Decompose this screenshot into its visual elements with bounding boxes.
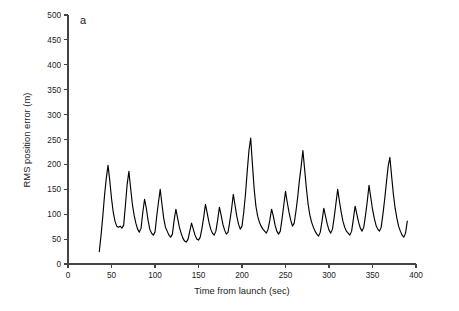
x-tick-label: 350 xyxy=(366,271,380,280)
x-tick-label: 400 xyxy=(409,271,423,280)
y-tick-label: 100 xyxy=(47,210,61,219)
y-tick-label: 50 xyxy=(52,235,62,244)
y-axis-title: RMS position error (m) xyxy=(21,93,32,188)
y-tick-label: 300 xyxy=(47,111,61,120)
y-tick-label: 150 xyxy=(47,185,61,194)
data-series-line xyxy=(99,138,407,252)
y-tick-label: 450 xyxy=(47,36,61,45)
x-tick-label: 50 xyxy=(107,271,117,280)
y-axis-ticks: 050100150200250300350400450500 xyxy=(47,11,68,269)
data-series-group xyxy=(99,138,407,252)
x-axis-ticks: 050100150200250300350400 xyxy=(66,264,424,280)
x-tick-label: 100 xyxy=(148,271,162,280)
figure-panel: a 050100150200250300350400450500 0501001… xyxy=(0,0,459,311)
y-tick-label: 200 xyxy=(47,160,61,169)
panel-label-a: a xyxy=(80,14,87,26)
y-tick-label: 250 xyxy=(47,136,61,145)
panel-label-group: a xyxy=(80,14,87,26)
chart-canvas: a 050100150200250300350400450500 0501001… xyxy=(0,0,459,311)
x-tick-label: 250 xyxy=(279,271,293,280)
y-tick-label: 0 xyxy=(56,260,61,269)
x-tick-label: 0 xyxy=(66,271,71,280)
x-axis-title: Time from launch (sec) xyxy=(194,285,290,296)
x-tick-label: 300 xyxy=(322,271,336,280)
y-tick-label: 400 xyxy=(47,61,61,70)
y-tick-label: 350 xyxy=(47,86,61,95)
x-tick-label: 150 xyxy=(192,271,206,280)
x-tick-label: 200 xyxy=(235,271,249,280)
y-tick-label: 500 xyxy=(47,11,61,20)
